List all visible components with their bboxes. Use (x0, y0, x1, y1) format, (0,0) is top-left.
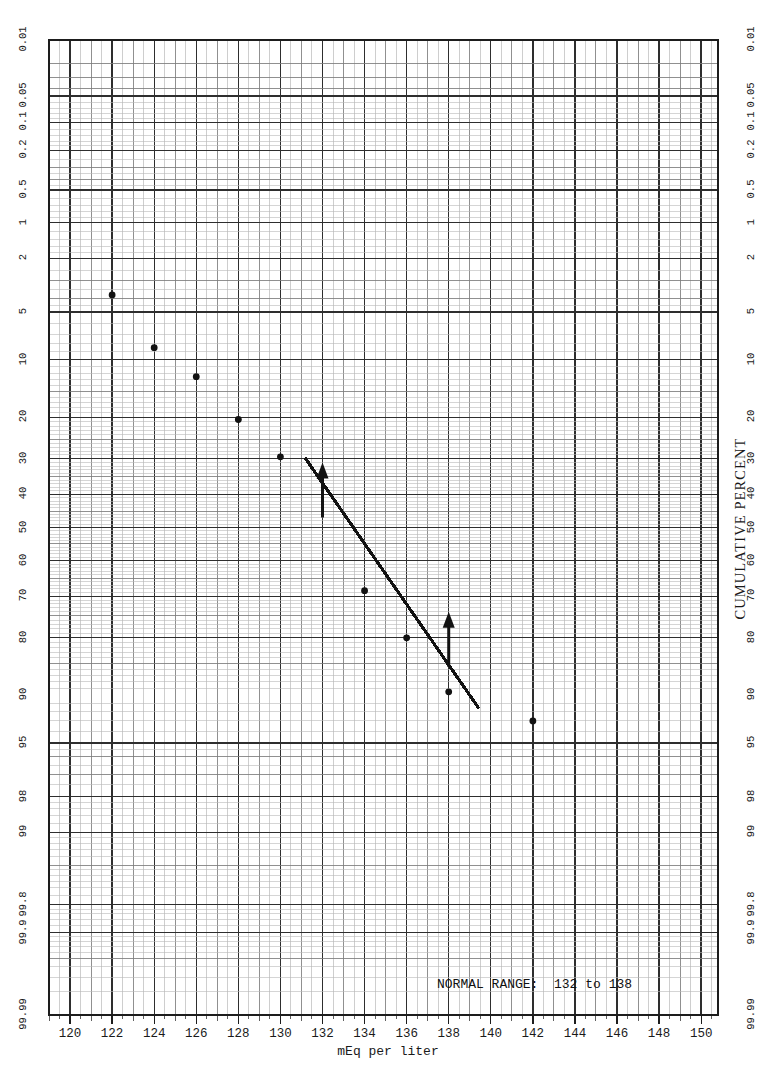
y-axis-left-tick-label: 80 (17, 614, 29, 660)
x-axis-tick-label: 120 (48, 1027, 92, 1041)
y-axis-right-tick-label: 10 (745, 336, 757, 382)
normal-range-note: NORMAL RANGE: 132 to 138 (437, 977, 632, 992)
data-point (277, 453, 284, 460)
x-axis-tick-label: 142 (511, 1027, 555, 1041)
y-axis-right-tick-label: 0.05 (745, 72, 757, 118)
y-axis-left-tick-label: 95 (17, 719, 29, 765)
data-point (193, 373, 200, 380)
x-axis-tick-label: 146 (595, 1027, 639, 1041)
x-axis-tick-label: 134 (343, 1027, 387, 1041)
data-point (109, 292, 116, 299)
plot-canvas (0, 0, 776, 1072)
x-axis-tick-label: 144 (553, 1027, 597, 1041)
y-axis-left-tick-label: 10 (17, 336, 29, 382)
y-axis-right-tick-label: 0.5 (745, 166, 757, 212)
x-axis-tick-label: 150 (679, 1027, 723, 1041)
data-point (361, 587, 368, 594)
y-axis-left-tick-label: 90 (17, 671, 29, 717)
y-axis-left-tick-label: 20 (17, 393, 29, 439)
y-axis-left-tick-label: 99.99 (17, 991, 29, 1037)
y-axis-right-tick-label: 98 (745, 773, 757, 819)
y-axis-right-tick-label: 90 (745, 671, 757, 717)
y-axis-right-tick-label: 5 (745, 288, 757, 334)
data-point (151, 344, 158, 351)
x-axis-tick-label: 132 (300, 1027, 344, 1041)
y-axis-left-tick-label: 99 (17, 808, 29, 854)
y-axis-left-tick-label: 99.9 (17, 909, 29, 955)
x-axis-tick-label: 140 (469, 1027, 513, 1041)
data-point (403, 634, 410, 641)
x-axis-title: mEq per liter (0, 1044, 776, 1059)
x-axis-tick-label: 148 (637, 1027, 681, 1041)
probability-plot-figure: 0.010.050.10.20.512510203040506070809095… (0, 0, 776, 1072)
x-axis-tick-label: 138 (427, 1027, 471, 1041)
data-point (235, 416, 242, 423)
x-axis-tick-label: 130 (258, 1027, 302, 1041)
x-axis-tick-label: 124 (132, 1027, 176, 1041)
x-axis-tick-label: 128 (216, 1027, 260, 1041)
x-axis-tick-label: 136 (385, 1027, 429, 1041)
data-point (445, 688, 452, 695)
y-axis-right-tick-label: 99.8 (745, 881, 757, 927)
y-axis-left-tick-label: 2 (17, 234, 29, 280)
y-axis-left-tick-label: 5 (17, 288, 29, 334)
y-axis-title: CUMULATIVE PERCENT (732, 429, 749, 629)
x-axis-tick-label: 126 (174, 1027, 218, 1041)
x-axis-tick-label: 122 (90, 1027, 134, 1041)
fit-line (306, 459, 479, 708)
y-axis-right-tick-label: 99.99 (745, 991, 757, 1037)
y-axis-left-tick-label: 0.01 (17, 16, 29, 62)
y-axis-right-tick-label: 95 (745, 719, 757, 765)
y-axis-right-tick-label: 0.01 (745, 16, 757, 62)
y-axis-left-tick-label: 70 (17, 572, 29, 618)
data-point (529, 718, 536, 725)
